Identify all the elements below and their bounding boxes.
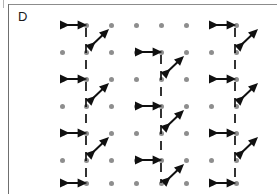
diagonal-double-arrow bbox=[241, 32, 255, 45]
diagonal-double-arrow bbox=[92, 140, 106, 153]
figure-panel: D bbox=[0, 0, 277, 194]
bond-overlay bbox=[0, 0, 277, 194]
diagonal-double-arrow bbox=[167, 59, 181, 72]
diagonal-double-arrow bbox=[241, 86, 255, 99]
diagonal-double-arrow bbox=[167, 113, 181, 126]
group-right bbox=[214, 25, 255, 183]
group-middle bbox=[140, 52, 181, 183]
diagonal-double-arrow bbox=[241, 140, 255, 153]
group-left bbox=[65, 25, 106, 183]
diagonal-double-arrow bbox=[92, 32, 106, 45]
diagonal-double-arrow bbox=[92, 86, 106, 99]
diagonal-double-arrow bbox=[167, 167, 181, 180]
